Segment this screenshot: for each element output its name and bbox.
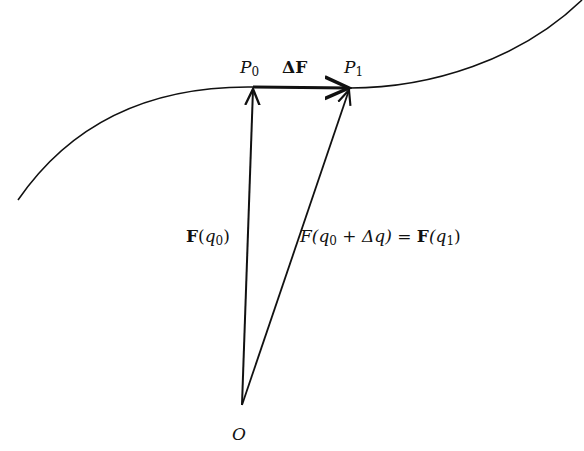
vector-f-q0 (242, 89, 253, 405)
diagram-canvas: P0 ΔF P1 F(q0) F(q0 + Δq) = F(q1) O (0, 0, 584, 451)
vector-delta-f (253, 87, 349, 88)
label-p0: P0 (240, 57, 259, 79)
label-delta-f: ΔF (282, 57, 307, 77)
label-f-sum: F(q0 + Δq) = F(q1) (300, 226, 461, 248)
label-p1: P1 (344, 57, 363, 79)
label-origin: O (232, 424, 246, 444)
space-curve (18, 0, 582, 200)
label-f-q0: F(q0) (186, 226, 230, 248)
